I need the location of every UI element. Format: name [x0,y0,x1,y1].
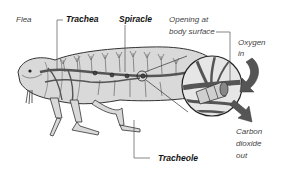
carbon-label-line1: Carbon [236,127,262,136]
oxygen-label-line1: Oxygen [238,38,266,47]
oxygen-label-line2: in [238,49,244,58]
flea-legs [50,98,140,136]
opening-label-line1: Opening at [169,15,208,24]
trachea-label: Trachea [66,15,98,24]
carbon-label-line3: out [236,151,247,160]
tracheole-label: Tracheole [158,154,198,163]
opening-label-line2: body surface [169,27,215,36]
flea-label: Flea [16,15,32,24]
carbon-dioxide-out-arrow [230,100,252,122]
spiracle-label: Spiracle [119,15,152,24]
flea-respiration-diagram: Flea Trachea Spiracle Opening at body su… [0,0,282,169]
oxygen-in-arrow [240,58,259,92]
carbon-label-line2: dioxide [236,139,261,148]
